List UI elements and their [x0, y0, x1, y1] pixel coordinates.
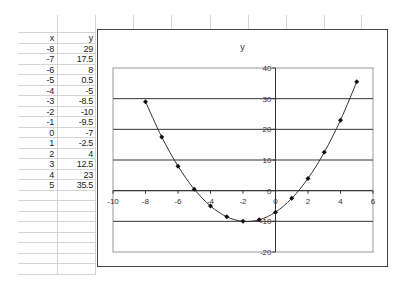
cell-y[interactable]: -5: [58, 86, 93, 96]
column-gridline: [248, 15, 249, 29]
cell-x[interactable]: -5: [18, 75, 54, 85]
cell-y[interactable]: 4: [58, 149, 93, 159]
cell-y[interactable]: -7: [58, 128, 93, 138]
cell-x[interactable]: -4: [18, 86, 54, 96]
cell-x[interactable]: -3: [18, 96, 54, 106]
header-x[interactable]: x: [18, 33, 54, 43]
row-gridline: [18, 232, 96, 233]
cell-x[interactable]: -8: [18, 44, 54, 54]
column-gridline: [286, 15, 287, 29]
cell-x[interactable]: 0: [18, 128, 54, 138]
row-gridline: [18, 242, 96, 243]
chart-area[interactable]: y: [97, 29, 388, 267]
column-gridline: [361, 15, 362, 29]
row-gridline: [18, 253, 96, 254]
cell-y[interactable]: -9.5: [58, 117, 93, 127]
row-gridline: [18, 221, 96, 222]
row-gridline: [18, 200, 96, 201]
cell-x[interactable]: 4: [18, 170, 54, 180]
cell-y[interactable]: 17.5: [58, 54, 93, 64]
cell-y[interactable]: 23: [58, 170, 93, 180]
row-gridline: [18, 190, 96, 191]
cell-x[interactable]: 2: [18, 149, 54, 159]
column-gridline: [95, 15, 96, 275]
cell-y[interactable]: 35.5: [58, 180, 93, 190]
row-gridline: [18, 263, 96, 264]
column-gridline: [133, 15, 134, 29]
cell-x[interactable]: 1: [18, 138, 54, 148]
cell-x[interactable]: -1: [18, 117, 54, 127]
chart-title: y: [98, 42, 387, 52]
cell-y[interactable]: 0.5: [58, 75, 93, 85]
cell-x[interactable]: 5: [18, 180, 54, 190]
cell-y[interactable]: 29: [58, 44, 93, 54]
cell-x[interactable]: -7: [18, 54, 54, 64]
cell-y[interactable]: -10: [58, 107, 93, 117]
cell-y[interactable]: 8: [58, 65, 93, 75]
column-gridline: [210, 15, 211, 29]
cell-y[interactable]: -8.5: [58, 96, 93, 106]
cell-y[interactable]: 12.5: [58, 159, 93, 169]
column-gridline: [171, 15, 172, 29]
row-gridline: [18, 211, 96, 212]
cell-x[interactable]: -6: [18, 65, 54, 75]
cell-x[interactable]: -2: [18, 107, 54, 117]
row-gridline: [18, 274, 96, 275]
column-gridline: [324, 15, 325, 29]
cell-y[interactable]: -2.5: [58, 138, 93, 148]
cell-x[interactable]: 3: [18, 159, 54, 169]
header-y[interactable]: y: [58, 33, 93, 43]
